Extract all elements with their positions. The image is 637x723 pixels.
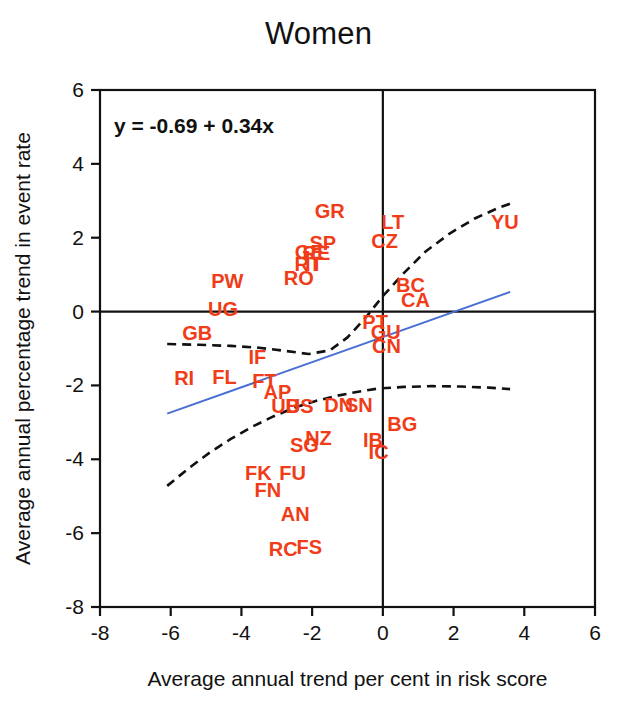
data-point-labels: GRLTYUSPCZGERERTITROPWBCCAUGPTGUGBCNIFRI… [174,200,519,560]
y-tick-label: -6 [65,521,84,544]
x-tick-label: -2 [303,621,322,644]
y-tick-label: 4 [72,152,84,175]
plot-frame [100,90,595,607]
data-point-label: UG [208,298,238,320]
y-tick-label: 0 [72,300,84,323]
scatter-plot-svg: -8-6-4-20246-8-6-4-20246 GRLTYUSPCZGERER… [0,0,637,723]
y-tick-label: 2 [72,226,84,249]
data-point-label: CN [372,335,401,357]
data-point-label: FU [279,462,306,484]
data-point-label: CZ [371,230,398,252]
data-point-label: GR [315,200,346,222]
data-point-label: FN [255,479,282,501]
reference-lines [100,90,595,607]
axis-ticks [91,90,595,616]
y-tick-label: 6 [72,78,84,101]
data-point-label: RI [174,367,194,389]
data-point-label: NZ [305,427,332,449]
data-point-label: PW [211,270,243,292]
x-tick-label: -8 [91,621,110,644]
y-tick-label: -8 [65,595,84,618]
x-tick-label: -6 [161,621,180,644]
data-point-label: YU [491,211,519,233]
data-point-label: AN [281,503,310,525]
y-axis-title: Average annual percentage trend in event… [11,132,34,565]
regression-equation-text: y = -0.69 + 0.34x [114,114,274,137]
data-point-label: RO [284,267,314,289]
x-tick-label: 0 [377,621,389,644]
x-tick-label: -4 [232,621,251,644]
data-point-label: CA [401,289,430,311]
data-point-label: IC [369,441,389,463]
data-point-label: GB [182,322,212,344]
data-point-label: SN [345,394,373,416]
x-tick-label: 2 [448,621,460,644]
confidence-band [167,204,510,486]
regression-equation-annotation: y = -0.69 + 0.34x [114,114,274,137]
x-tick-label: 4 [518,621,530,644]
data-point-label: IF [248,346,266,368]
x-axis-title: Average annual trend per cent in risk sc… [147,667,547,690]
axis-tick-labels: -8-6-4-20246-8-6-4-20246 [65,78,601,644]
data-point-label: BG [387,413,417,435]
y-tick-label: -2 [65,373,84,396]
data-point-label: FS [297,536,323,558]
data-point-label: RC [269,538,298,560]
data-point-label: US [286,395,314,417]
x-tick-label: 6 [589,621,601,644]
data-point-label: FL [212,366,236,388]
plot-area: -8-6-4-20246-8-6-4-20246 GRLTYUSPCZGERER… [0,0,637,723]
y-tick-label: -4 [65,447,84,470]
chart-page: Women -8-6-4-20246-8-6-4-20246 GRLTYUSPC… [0,0,637,723]
